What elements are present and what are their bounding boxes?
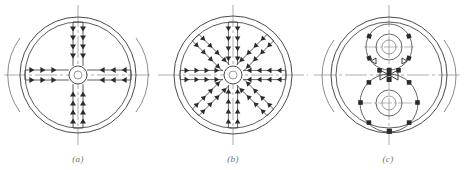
outer-arc-left-c [322,40,334,112]
figure-a-caption: (a) [0,154,156,164]
figure-b-drawing [156,0,310,150]
spoke-b-135 [235,77,276,118]
spoke-b-225 [190,77,231,118]
outer-arc-right-c [444,40,456,112]
figure-sheet: (a) [0,0,466,170]
figure-panel-b: (b) [156,0,310,170]
hub-circle-a [69,66,87,84]
figure-a-drawing [0,0,156,150]
figure-panel-a: (a) [0,0,156,170]
hub-circle-b [224,66,242,84]
figure-panel-c: (c) [310,0,466,170]
figure-c-caption: (c) [310,154,466,164]
figure-c-drawing [310,0,466,150]
spoke-b-315 [190,32,231,73]
spoke-b-045 [235,32,276,73]
figure-b-caption: (b) [156,154,310,164]
